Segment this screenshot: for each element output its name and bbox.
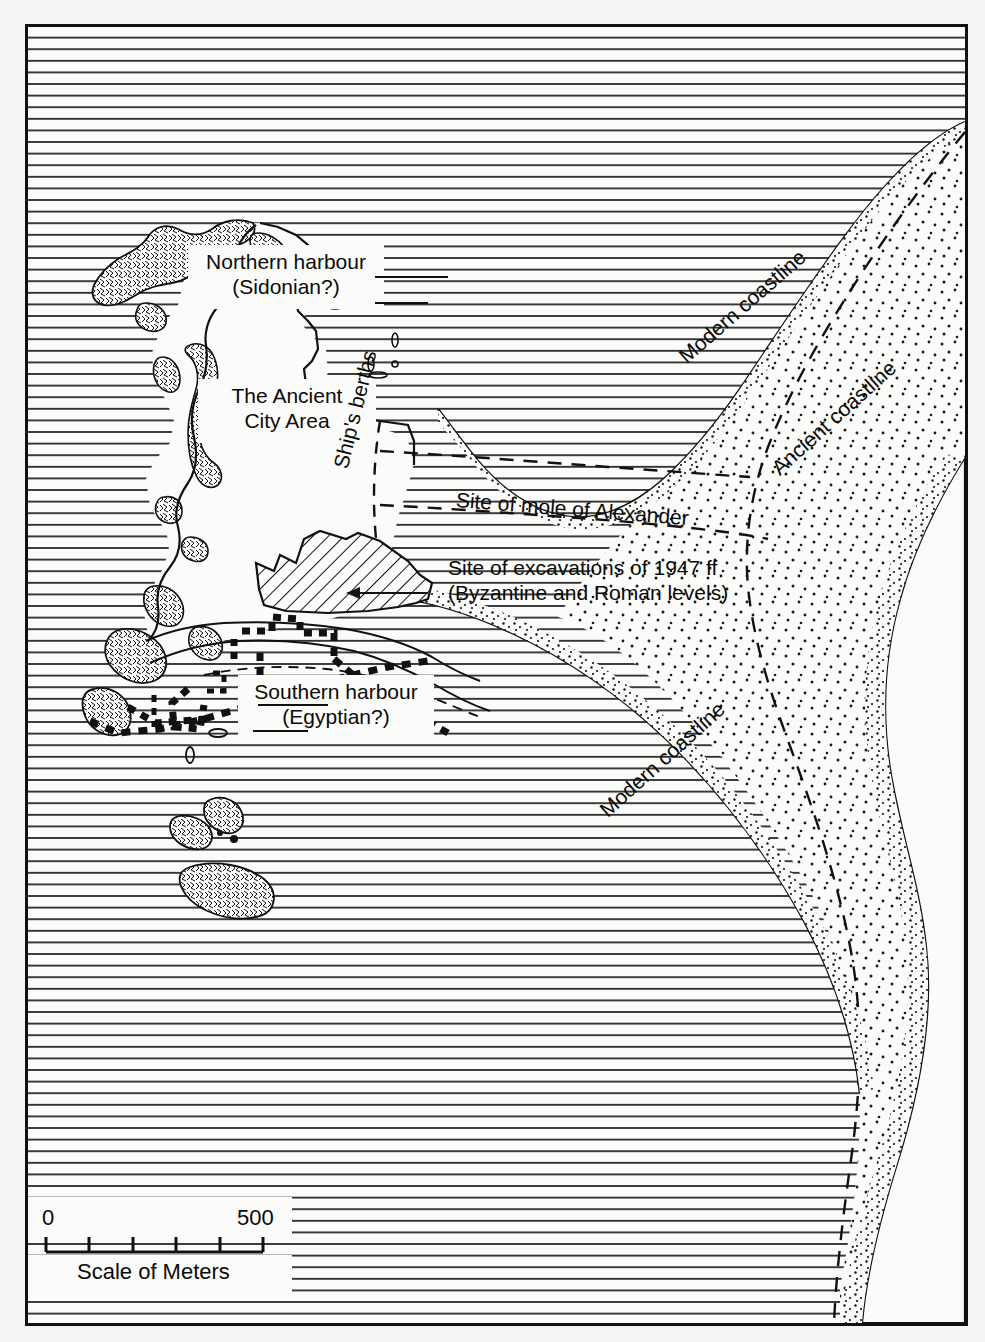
- label-southern-harbour: Southern harbour (Egyptian?): [242, 679, 430, 729]
- label-excavations: Site of excavations of 1947 ff (Byzantin…: [448, 555, 728, 605]
- scale-end-label: 500: [237, 1205, 274, 1231]
- label-northern-harbour: Northern harbour (Sidonian?): [195, 249, 377, 299]
- scale-start-label: 0: [42, 1205, 54, 1231]
- map-page: Northern harbour (Sidonian?) The Ancient…: [0, 0, 985, 1342]
- map-frame: Northern harbour (Sidonian?) The Ancient…: [25, 24, 968, 1326]
- map-base-layer: [28, 27, 965, 1323]
- scale-caption: Scale of Meters: [77, 1259, 230, 1285]
